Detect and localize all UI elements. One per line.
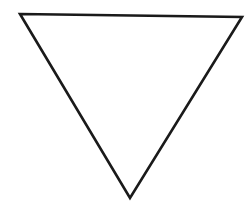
diagram-canvas <box>0 0 246 212</box>
inverted-triangle-shape <box>20 14 242 198</box>
